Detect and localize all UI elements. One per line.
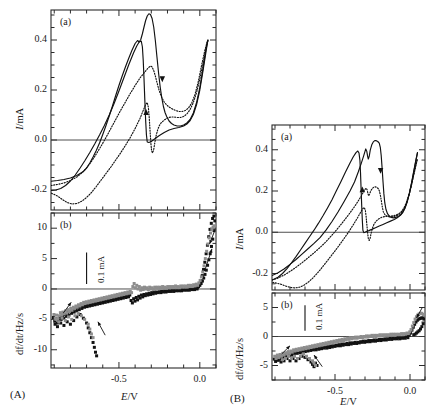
A_b-point-open-squares bbox=[90, 332, 93, 335]
A_b-point-open-squares bbox=[135, 284, 138, 287]
B_a-ytick-label: 0.2 bbox=[234, 184, 268, 195]
A_b-point-filled-squares bbox=[203, 261, 206, 264]
A_b-point-open-squares bbox=[138, 285, 141, 288]
figure-tag-A: (A) bbox=[10, 388, 25, 400]
B_b-point-open-squares bbox=[275, 357, 278, 360]
A_b-point-open-squares bbox=[205, 250, 208, 253]
A_b-point-open-squares bbox=[130, 291, 133, 294]
A_b-point-filled-squares bbox=[139, 297, 142, 300]
B_a-direction-arrow bbox=[360, 187, 365, 193]
A_b-point-open-squares bbox=[70, 318, 73, 321]
A_b-point-filled-squares bbox=[54, 323, 57, 326]
panel-B: I/mA df/dt/Hz/s E/V (B) 0.40.20.0-0.2(a)… bbox=[222, 0, 440, 416]
A_b-point-open-squares bbox=[54, 318, 57, 321]
A_b-point-open-squares bbox=[203, 264, 206, 267]
A_a-direction-arrow bbox=[160, 76, 165, 82]
A_b-xtick-label: 0.0 bbox=[183, 373, 217, 384]
A_b-point-open-squares bbox=[206, 243, 209, 246]
A_b-point-filled-squares bbox=[212, 215, 215, 218]
B_b-point-open-squares bbox=[411, 325, 414, 328]
A_b-point-open-squares bbox=[213, 224, 216, 227]
B_b-xtick-label: 0.0 bbox=[393, 385, 427, 396]
A_b-point-filled-squares bbox=[69, 323, 72, 326]
B_b-xtick-label: -0.5 bbox=[318, 385, 352, 396]
B_a-curve-solid-cv bbox=[272, 141, 418, 276]
B_b-point-open-squares bbox=[280, 355, 283, 358]
A_b-ytick-label: 10 bbox=[13, 221, 47, 232]
A_b-point-open-squares bbox=[201, 270, 204, 273]
A_a-ytick-label: -0.2 bbox=[13, 183, 47, 194]
B_b-point-open-squares bbox=[296, 357, 299, 360]
A_a-data-layer bbox=[51, 14, 208, 204]
A_a-plot-frame bbox=[51, 10, 216, 210]
A_b-point-open-squares bbox=[88, 328, 91, 331]
A_b-xtick-label: -0.5 bbox=[102, 373, 136, 384]
B_b-subpanel-tag: (b) bbox=[281, 299, 293, 310]
A_b-point-open-squares bbox=[68, 310, 71, 313]
A_b-point-open-squares bbox=[87, 323, 90, 326]
B_b-point-open-squares bbox=[293, 355, 296, 358]
A_b-point-filled-squares bbox=[136, 298, 139, 301]
A_b-point-filled-squares bbox=[62, 324, 65, 327]
B_a-ytick-label: 0.4 bbox=[234, 143, 268, 154]
A_b-point-open-squares bbox=[131, 285, 134, 288]
B_b-point-open-squares bbox=[284, 357, 287, 360]
A_b-point-open-squares bbox=[61, 317, 64, 320]
A_b-point-filled-squares bbox=[94, 351, 97, 354]
B_b-ytick-label: 5 bbox=[234, 301, 268, 312]
B_a-data-layer bbox=[272, 141, 418, 288]
A_b-point-filled-squares bbox=[210, 245, 213, 248]
B_b-point-filled-squares bbox=[422, 322, 425, 325]
A_b-point-open-squares bbox=[55, 314, 58, 317]
A_b-point-filled-squares bbox=[92, 341, 95, 344]
B_b-point-open-squares bbox=[277, 356, 280, 359]
B_b-point-open-squares bbox=[412, 321, 415, 324]
A_a-curve-solid-cv bbox=[51, 14, 208, 182]
A_b-point-open-squares bbox=[92, 336, 95, 339]
A_b-point-open-squares bbox=[67, 315, 70, 318]
B_a-ytick-label: 0.0 bbox=[234, 225, 268, 236]
B_b-point-open-squares bbox=[302, 352, 305, 355]
A_b-point-open-squares bbox=[80, 314, 83, 317]
A_a-curve-dotted-cv-return bbox=[51, 41, 208, 205]
B_b-point-open-squares bbox=[299, 355, 302, 358]
A_b-point-open-squares bbox=[209, 232, 212, 235]
A_a-ytick-label: 0.0 bbox=[13, 133, 47, 144]
panel-B-xlabel: E/V bbox=[340, 396, 357, 407]
A_b-point-filled-squares bbox=[213, 219, 216, 222]
A_b-point-open-squares bbox=[57, 320, 60, 323]
B_b-ytick-label: -5 bbox=[234, 359, 268, 370]
A_b-point-open-squares bbox=[204, 257, 207, 260]
B_a-ytick-label: -0.2 bbox=[234, 267, 268, 278]
B_b-point-open-squares bbox=[290, 357, 293, 360]
A_b-point-open-squares bbox=[65, 311, 68, 314]
B_b-ytick-label: 0 bbox=[234, 330, 268, 341]
A_a-curve-solid-cv-return bbox=[51, 40, 208, 191]
A_b-point-open-squares bbox=[73, 314, 76, 317]
A_b-data-layer bbox=[52, 215, 216, 358]
A_a-direction-arrow bbox=[143, 109, 148, 115]
B_a-subpanel-tag: (a) bbox=[281, 131, 292, 142]
A_b-point-open-squares bbox=[71, 309, 74, 312]
B_b-point-open-squares bbox=[305, 355, 308, 358]
A_b-point-open-squares bbox=[200, 275, 203, 278]
B_b-point-open-squares bbox=[287, 355, 290, 358]
B_b-point-open-squares bbox=[314, 364, 317, 367]
A_b-point-open-squares bbox=[83, 318, 86, 321]
panel-A-plot-canvas bbox=[0, 0, 225, 390]
A_b-point-open-squares bbox=[133, 282, 136, 285]
A_b-point-filled-squares bbox=[95, 354, 98, 357]
A_b-ytick-label: 0 bbox=[13, 282, 47, 293]
B_b-point-open-squares bbox=[281, 358, 284, 361]
panel-A: I/mA df/dt/Hz/s E/V (A) 0.40.20.0-0.2(a)… bbox=[0, 0, 225, 416]
A_a-ytick-label: 0.4 bbox=[13, 33, 47, 44]
A_b-ytick-label: -5 bbox=[13, 312, 47, 323]
figure-tag-B: (B) bbox=[230, 392, 245, 404]
A_b-point-open-squares bbox=[58, 314, 61, 317]
B_b-annotation-arrowhead bbox=[314, 355, 318, 359]
panel-A-xlabel: E/V bbox=[121, 391, 138, 402]
B_b-point-open-squares bbox=[422, 313, 425, 316]
A_a-subpanel-tag: (a) bbox=[60, 16, 71, 27]
A_b-ytick-label: -10 bbox=[13, 343, 47, 354]
B_b-scalebar-label: 0.1 mA bbox=[314, 303, 324, 330]
